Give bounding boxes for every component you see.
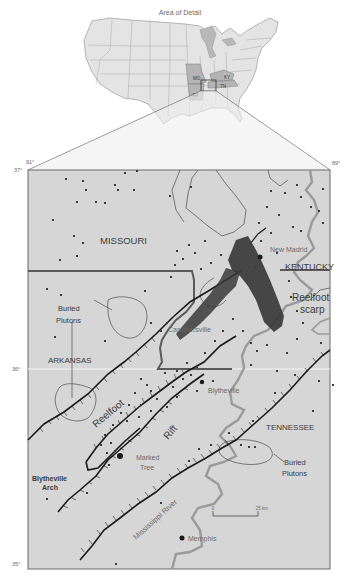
detail-map: 91° 37° 89° 36° 35° <box>12 159 340 569</box>
label-memphis: Memphis <box>188 535 217 543</box>
projection-fan <box>28 91 330 170</box>
label-blytheville-arch-1: Blytheville <box>32 475 67 483</box>
label-missouri: MISSOURI <box>100 235 147 246</box>
city-dot-marked-tree <box>117 453 123 459</box>
label-arkansas: ARKANSAS <box>48 356 92 365</box>
city-dot-memphis <box>180 536 185 541</box>
label-new-madrid: New Madrid <box>270 246 307 253</box>
label-tennessee: TENNESSEE <box>266 423 314 432</box>
lon-west-label: 91° <box>26 159 34 165</box>
seismic-map: Area of Detail MO <box>0 0 359 579</box>
lat-mid-label: 36° <box>12 366 20 372</box>
label-marked-tree-1: Marked <box>136 454 159 461</box>
label-blytheville-arch-2: Arch <box>42 484 58 491</box>
label-blytheville: Blytheville <box>208 387 240 395</box>
inset-title: Area of Detail <box>159 9 202 16</box>
label-reelfoot-scarp-1: Reelfoot <box>292 292 329 303</box>
city-dot-new-madrid <box>258 255 263 260</box>
label-caruthersville: Caruthersville <box>168 326 211 333</box>
lon-east-label: 89° <box>332 160 340 166</box>
label-kentucky: KENTUCKY <box>285 262 334 272</box>
label-buried-plutons-w-2: Plutons <box>56 316 81 325</box>
label-buried-plutons-e-2: Plutons <box>282 469 307 478</box>
label-buried-plutons-w-1: Buried <box>58 304 80 313</box>
label-buried-plutons-e-1: Buried <box>284 458 306 467</box>
label-reelfoot-scarp-2: scarp <box>300 304 325 315</box>
inset-label-mo: MO <box>193 76 201 81</box>
lat-north-label: 37° <box>14 167 22 173</box>
city-dot-blytheville <box>200 380 204 384</box>
scale-end: 25 km <box>256 506 269 511</box>
inset-label-ky: KY <box>224 75 230 80</box>
lat-south-label: 35° <box>12 561 20 567</box>
inset-label-tn: TN <box>220 84 226 89</box>
label-marked-tree-2: Tree <box>140 464 154 471</box>
